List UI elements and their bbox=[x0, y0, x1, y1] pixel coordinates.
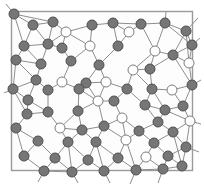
network-node-filled bbox=[181, 26, 191, 36]
network-node-filled bbox=[9, 9, 19, 19]
network-node-filled bbox=[67, 167, 77, 177]
network-node-filled bbox=[8, 84, 18, 94]
network-node-filled bbox=[39, 166, 49, 176]
network-node-filled bbox=[147, 84, 157, 94]
network-node-filled bbox=[153, 117, 163, 127]
network-node-filled bbox=[11, 55, 21, 65]
network-node-filled bbox=[168, 127, 178, 137]
network-node-filled bbox=[87, 20, 97, 30]
network-node-filled bbox=[122, 84, 132, 94]
network-node-filled bbox=[178, 101, 188, 111]
network-node-open bbox=[121, 135, 131, 145]
network-node-open bbox=[57, 77, 67, 87]
network-node-open bbox=[124, 27, 134, 37]
network-node-filled bbox=[94, 60, 104, 70]
network-node-open bbox=[85, 41, 95, 51]
network-node-filled bbox=[187, 80, 197, 90]
network-node-filled bbox=[99, 121, 109, 131]
network-node-filled bbox=[140, 100, 150, 110]
network-node-open bbox=[167, 85, 177, 95]
network-node-filled bbox=[31, 75, 41, 85]
network-node-open bbox=[185, 116, 195, 126]
figure-root bbox=[0, 0, 204, 185]
network-node-filled bbox=[74, 84, 84, 94]
network-node-open bbox=[101, 77, 111, 87]
network-node-filled bbox=[160, 18, 170, 28]
network-node-filled bbox=[11, 123, 21, 133]
network-node-filled bbox=[113, 153, 123, 163]
network-node-filled bbox=[19, 41, 29, 51]
network-node-filled bbox=[43, 39, 53, 49]
network-node-filled bbox=[28, 20, 38, 30]
network-node-open bbox=[184, 58, 194, 68]
network-node-open bbox=[141, 152, 151, 162]
network-node-open bbox=[128, 65, 138, 75]
network-node-filled bbox=[163, 151, 173, 161]
network-node-filled bbox=[23, 95, 33, 105]
network-node-filled bbox=[91, 137, 101, 147]
network-node-filled bbox=[134, 126, 144, 136]
network-node-filled bbox=[108, 18, 118, 28]
network-node-filled bbox=[187, 40, 197, 50]
network-node-filled bbox=[33, 136, 43, 146]
network-node-filled bbox=[109, 96, 119, 106]
network-node-filled bbox=[83, 155, 93, 165]
network-node-filled bbox=[43, 85, 53, 95]
network-node-filled bbox=[181, 142, 191, 152]
network-diagram bbox=[0, 0, 204, 185]
network-node-filled bbox=[48, 17, 58, 27]
network-node-filled bbox=[136, 19, 146, 29]
network-node-filled bbox=[158, 164, 168, 174]
network-node-open bbox=[150, 46, 160, 56]
network-node-filled bbox=[113, 41, 123, 51]
network-node-filled bbox=[57, 43, 67, 53]
network-node-filled bbox=[77, 125, 87, 135]
network-node-open bbox=[61, 27, 71, 37]
network-node-filled bbox=[168, 50, 178, 60]
network-node-open bbox=[117, 113, 127, 123]
network-node-filled bbox=[160, 105, 170, 115]
network-node-filled bbox=[99, 166, 109, 176]
network-node-filled bbox=[43, 107, 53, 117]
network-node-filled bbox=[131, 165, 141, 175]
network-node-filled bbox=[19, 151, 29, 161]
network-node-filled bbox=[145, 64, 155, 74]
network-node-filled bbox=[73, 106, 83, 116]
network-node-filled bbox=[22, 109, 32, 119]
network-node-filled bbox=[50, 153, 60, 163]
network-node-filled bbox=[149, 138, 159, 148]
network-node-filled bbox=[63, 137, 73, 147]
network-node-open bbox=[55, 123, 65, 133]
network-node-filled bbox=[66, 56, 76, 66]
network-node-open bbox=[93, 96, 103, 106]
network-node-filled bbox=[177, 161, 187, 171]
network-node-filled bbox=[36, 59, 46, 69]
